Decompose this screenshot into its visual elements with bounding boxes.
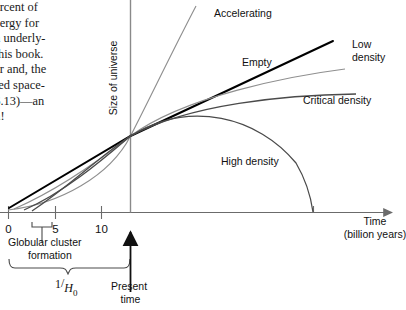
present-time-line-2: time (121, 293, 141, 305)
present-time-line-1: Present (111, 280, 147, 292)
hubble-subscript: 0 (73, 288, 78, 298)
x-tick-label-10: 10 (95, 223, 108, 235)
curve-label-low-density: Low density (352, 38, 386, 63)
x-axis-units: (billion years) (344, 228, 406, 240)
globular-cluster-bracket (32, 222, 52, 227)
curve-accelerating (8, 6, 196, 210)
curve-label-accelerating: Accelerating (214, 7, 272, 19)
expansion-chart: 0 5 10 Time (billion years) Size of univ… (0, 0, 406, 310)
low-density-word-2: density (352, 51, 386, 63)
globular-cluster-label: Globular cluster formation (8, 236, 84, 261)
x-axis-title: Time (364, 215, 387, 227)
globular-cluster-line-2: formation (28, 249, 72, 261)
hubble-time-label: 1/H0 (55, 276, 78, 298)
y-axis-title: Size of universe (107, 40, 119, 115)
globular-cluster-line-1: Globular cluster (8, 236, 82, 248)
present-time-label: Present time (111, 280, 150, 305)
hubble-time-brace (9, 259, 130, 274)
x-tick-label-0: 0 (5, 223, 11, 235)
curve-label-critical-density: Critical density (303, 94, 372, 106)
curve-critical-density (24, 94, 356, 210)
cosmology-expansion-figure: percent of energy for on underly- t this… (0, 0, 406, 310)
x-tick-label-5: 5 (52, 223, 58, 235)
curve-empty (9, 41, 333, 208)
curve-label-high-density: High density (221, 155, 280, 167)
low-density-word-1: Low (352, 38, 372, 50)
curve-label-empty: Empty (242, 56, 273, 68)
